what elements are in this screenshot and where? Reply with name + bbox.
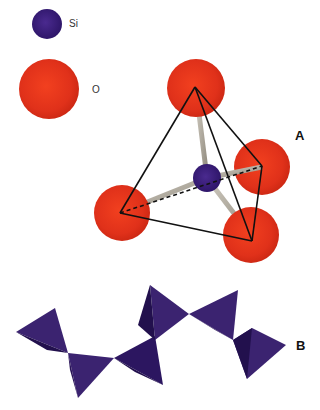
edge-hidden — [120, 166, 262, 213]
panel-b-label: B — [296, 338, 305, 353]
chain-tetrahedron — [189, 290, 238, 340]
panel-a-tetrahedron — [94, 59, 290, 263]
legend-silicon-label: Si — [69, 18, 78, 29]
panel-a-label: A — [295, 128, 304, 143]
legend-silicon-atom — [32, 9, 62, 39]
chain-tetrahedron — [138, 285, 189, 340]
legend-oxygen-atom — [19, 59, 79, 119]
chain-tetrahedron — [114, 336, 163, 385]
silicate-diagram — [0, 0, 320, 410]
chain-tetrahedron — [16, 308, 68, 353]
oxygen-atom-bottom — [223, 207, 279, 263]
silicon-atom — [193, 164, 221, 192]
legend-oxygen-label: O — [92, 84, 100, 95]
chain-tetrahedron — [233, 328, 286, 379]
chain-tetrahedron — [68, 353, 114, 398]
edge — [120, 87, 195, 213]
panel-b-tetrahedra-chain — [16, 285, 286, 398]
